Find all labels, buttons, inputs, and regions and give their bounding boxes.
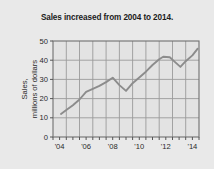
plot-background: [53, 41, 199, 137]
y-axis-title-line-1: Sales,: [20, 78, 29, 99]
y-tick-label-40: 40: [40, 56, 48, 65]
y-tick-label-50: 50: [40, 37, 48, 46]
x-tick-label-04: '04: [55, 142, 65, 151]
y-tick-label-30: 30: [40, 75, 48, 84]
y-tick-label-10: 10: [40, 113, 48, 122]
y-axis-title-line-2: millions of dollars: [30, 60, 39, 118]
x-tick-label-06: '06: [81, 142, 91, 151]
x-tick-label-12: '12: [161, 142, 171, 151]
x-axis-labels: '04 '06 '08 '10 '12 '14: [55, 142, 198, 151]
line-chart-plot: 0 10 20 30 40 50: [0, 0, 214, 169]
x-tick-label-10: '10: [134, 142, 144, 151]
x-tick-label-14: '14: [187, 142, 197, 151]
y-tick-label-0: 0: [44, 133, 48, 142]
x-tick-label-08: '08: [108, 142, 118, 151]
y-axis-title: Sales, millions of dollars: [20, 60, 39, 118]
y-axis: 0 10 20 30 40 50: [40, 37, 53, 142]
y-tick-label-20: 20: [40, 94, 48, 103]
chart-figure: Sales increased from 2004 to 2014.: [0, 0, 214, 169]
